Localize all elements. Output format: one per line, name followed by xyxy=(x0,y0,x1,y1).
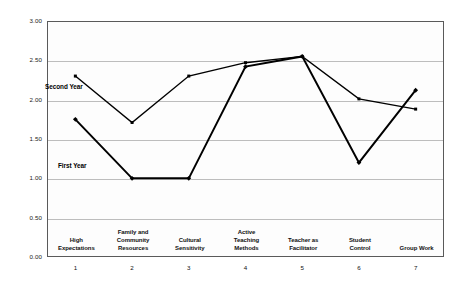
x-tick-label: 2 xyxy=(104,265,161,271)
gridline xyxy=(48,179,443,180)
series-label-first-year: First Year xyxy=(58,162,87,169)
y-tick-label: 0.50 xyxy=(6,215,42,221)
category-label: Family andCommunityResources xyxy=(105,228,162,252)
category-label: CulturalSensitivity xyxy=(161,236,218,252)
gridline xyxy=(48,101,443,102)
x-tick-label: 3 xyxy=(160,265,217,271)
y-tick-label: 0.00 xyxy=(6,254,42,260)
x-tick-label: 5 xyxy=(274,265,331,271)
y-tick-label: 3.00 xyxy=(6,18,42,24)
x-tick-label: 4 xyxy=(217,265,274,271)
category-label: HighExpectations xyxy=(48,236,105,252)
category-label: StudentControl xyxy=(332,236,389,252)
gridline xyxy=(48,140,443,141)
x-tick-label: 7 xyxy=(387,265,444,271)
y-tick-label: 2.50 xyxy=(6,57,42,63)
category-label: Group Work xyxy=(388,244,445,252)
x-tick-label: 6 xyxy=(331,265,388,271)
gridline xyxy=(48,219,443,220)
series-label-second-year: Second Year xyxy=(45,83,83,90)
y-tick-label: 1.50 xyxy=(6,136,42,142)
category-label: Teacher asFacilitator xyxy=(275,236,332,252)
gridline xyxy=(48,61,443,62)
y-tick-label: 2.00 xyxy=(6,97,42,103)
x-tick-label: 1 xyxy=(47,265,104,271)
y-axis-tick-labels: 0.000.501.001.502.002.503.00 xyxy=(6,0,42,284)
line-chart: 0.000.501.001.502.002.503.00 HighExpecta… xyxy=(0,0,465,284)
plot-area: HighExpectationsFamily andCommunityResou… xyxy=(47,21,444,257)
category-label: ActiveTeachingMethods xyxy=(218,228,275,252)
y-tick-label: 1.00 xyxy=(6,175,42,181)
